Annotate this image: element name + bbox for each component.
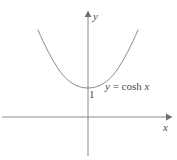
equation-operator: = <box>110 80 122 92</box>
y-axis-label: y <box>93 11 98 22</box>
cosh-function-figure: y x 1 y = cosh x <box>0 0 177 160</box>
x-axis-arrowhead <box>166 114 173 121</box>
equation-function-name: cosh <box>122 80 142 92</box>
plot-canvas <box>0 0 177 160</box>
x-axis-label: x <box>163 122 168 133</box>
equation-argument-variable: x <box>145 80 150 92</box>
y-axis-arrowhead <box>85 11 92 18</box>
y-intercept-tick-label: 1 <box>89 89 95 100</box>
curve-equation-label: y = cosh x <box>105 81 149 92</box>
